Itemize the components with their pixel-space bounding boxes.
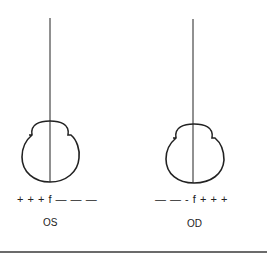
right-head-figure (166, 19, 224, 183)
right-head-outline (166, 124, 224, 183)
left-head-outline (22, 121, 79, 182)
eye-head-position-diagram: + + + f — — — OS — — - f + + + OD (0, 0, 267, 254)
right-sign-sequence: — — - f + + + (155, 193, 228, 205)
right-eye-label: OD (187, 218, 202, 229)
left-sign-sequence: + + + f — — — (17, 193, 97, 205)
left-eye-label: OS (43, 217, 57, 228)
bottom-divider (0, 251, 267, 253)
left-head-figure (22, 18, 79, 182)
diagram-drawing (0, 0, 267, 254)
